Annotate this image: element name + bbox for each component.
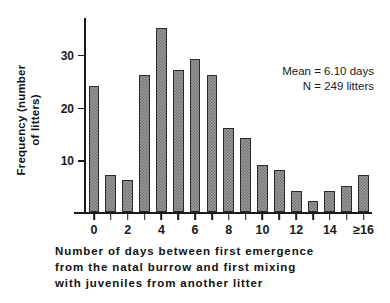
bar-slot — [136, 18, 153, 212]
bar-slot — [187, 18, 204, 212]
histogram-bar — [173, 70, 184, 212]
bar-slot — [254, 18, 271, 212]
y-axis-title-line-2: of litters) — [28, 94, 42, 145]
histogram-bar — [308, 201, 319, 212]
bar-slot — [170, 18, 187, 212]
histogram-bar — [324, 191, 335, 212]
x-axis-tick-label: 8 — [225, 223, 232, 237]
bar-slot — [338, 18, 355, 212]
histogram-bar — [358, 175, 369, 212]
x-axis-tick-label: 10 — [256, 223, 270, 237]
histogram-bar — [341, 186, 352, 212]
y-axis-tick-label: 30 — [61, 49, 74, 63]
x-axis-tick — [329, 213, 331, 220]
histogram-bar — [105, 175, 116, 212]
histogram-bar — [156, 28, 167, 212]
x-axis-tick — [127, 213, 129, 220]
plot-area: 102030 02468101214≥16 — [84, 18, 372, 213]
y-axis-tick: 30 — [78, 55, 85, 57]
x-axis-tick-label: 2 — [124, 223, 131, 237]
x-axis-tick — [228, 213, 230, 220]
x-axis-tick — [161, 213, 163, 220]
x-axis-tick — [262, 213, 264, 220]
x-axis-tick — [194, 213, 196, 220]
histogram-bar — [274, 170, 285, 212]
x-axis-tick — [363, 213, 365, 220]
x-axis-tick — [295, 213, 297, 220]
x-axis-tick — [93, 213, 95, 220]
bar-slot — [102, 18, 119, 212]
bar-slot — [321, 18, 338, 212]
x-axis-caption-line-2: from the natal burrow and first mixing — [55, 259, 375, 275]
x-axis-caption: Number of days between first emergence f… — [55, 243, 375, 291]
histogram-bar — [257, 165, 268, 212]
histogram-bar — [240, 138, 251, 212]
x-axis-tick — [211, 213, 213, 220]
statistics-annotation: Mean = 6.10 days N = 249 litters — [282, 64, 374, 94]
x-axis-caption-line-3: with juveniles from another litter — [55, 275, 375, 291]
bar-slot — [153, 18, 170, 212]
x-axis-tick-label: 14 — [323, 223, 337, 237]
x-axis-tick-labels: 02468101214≥16 — [86, 223, 372, 241]
bar-slot — [86, 18, 103, 212]
histogram-bar — [89, 86, 100, 212]
x-axis-ticks — [86, 213, 372, 221]
histogram-bar — [223, 128, 234, 212]
histogram-bar — [190, 59, 201, 212]
x-axis-tick-label: 6 — [192, 223, 199, 237]
bar-slot — [305, 18, 322, 212]
x-axis-tick-label: 12 — [289, 223, 303, 237]
x-axis-tick — [177, 213, 179, 220]
y-axis-tick: 20 — [78, 108, 85, 110]
histogram-bar — [207, 75, 218, 212]
x-axis-caption-line-1: Number of days between first emergence — [55, 243, 375, 259]
x-axis-tick — [110, 213, 112, 220]
histogram-bar — [291, 191, 302, 212]
x-axis-tick — [279, 213, 281, 220]
x-axis-tick-label: 0 — [91, 223, 98, 237]
y-axis-tick-label: 10 — [61, 154, 74, 168]
bar-slot — [355, 18, 372, 212]
histogram-bar — [122, 180, 133, 212]
x-axis-tick-label: ≥16 — [353, 223, 374, 237]
y-axis-title: Frequency (number of litters) — [0, 0, 56, 240]
bar-slot — [288, 18, 305, 212]
x-axis-tick — [245, 213, 247, 220]
sample-size-annotation: N = 249 litters — [282, 79, 374, 94]
y-axis-tick-label: 20 — [61, 102, 74, 116]
y-axis-title-line-1: Frequency (number — [14, 65, 28, 176]
x-axis-tick — [346, 213, 348, 220]
y-axis-tick: 10 — [78, 160, 85, 162]
bar-slot — [204, 18, 221, 212]
x-axis-tick-label: 4 — [158, 223, 165, 237]
x-axis-tick — [312, 213, 314, 220]
bar-slot — [237, 18, 254, 212]
bar-series — [86, 18, 372, 212]
mean-annotation: Mean = 6.10 days — [282, 64, 374, 79]
histogram-bar — [139, 75, 150, 212]
bar-slot — [271, 18, 288, 212]
x-axis-tick — [144, 213, 146, 220]
bar-slot — [119, 18, 136, 212]
histogram-figure: Frequency (number of litters) 102030 024… — [0, 0, 390, 303]
bar-slot — [220, 18, 237, 212]
